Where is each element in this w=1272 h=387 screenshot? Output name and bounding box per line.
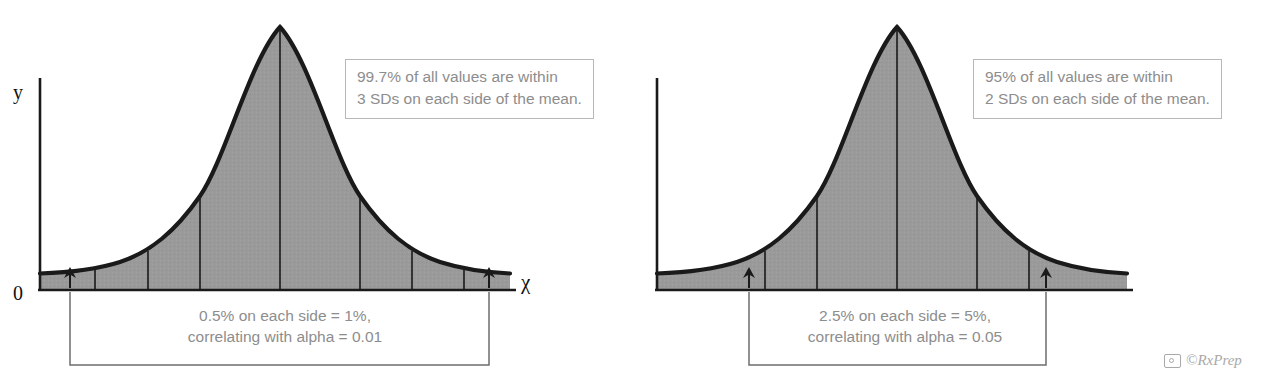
callout-line-1: 95% of all values are within — [985, 66, 1210, 88]
camera-icon — [1164, 354, 1181, 368]
bracket-caption-line-1: 2.5% on each side = 5%, — [740, 306, 1070, 327]
bracket-caption-line-1: 0.5% on each side = 1%, — [120, 306, 450, 327]
x-axis-label: χ — [521, 272, 530, 293]
bracket-caption-line-2: correlating with alpha = 0.05 — [740, 327, 1070, 348]
watermark: ©RxPrep — [1164, 352, 1242, 369]
bracket-caption-right: 2.5% on each side = 5%, correlating with… — [740, 306, 1070, 348]
callout-line-2: 3 SDs on each side of the mean. — [357, 88, 582, 110]
origin-label: 0 — [13, 283, 23, 303]
callout-box-left: 99.7% of all values are within 3 SDs on … — [345, 59, 594, 119]
y-axis-label: y — [13, 82, 23, 102]
bracket-caption-left: 0.5% on each side = 1%, correlating with… — [120, 306, 450, 348]
callout-line-2: 2 SDs on each side of the mean. — [985, 88, 1210, 110]
watermark-text: ©RxPrep — [1186, 352, 1242, 369]
callout-line-1: 99.7% of all values are within — [357, 66, 582, 88]
callout-box-right: 95% of all values are within 2 SDs on ea… — [973, 59, 1222, 119]
bracket-caption-line-2: correlating with alpha = 0.01 — [120, 327, 450, 348]
normal-distribution-figure: y 0 χ — [0, 0, 1272, 387]
